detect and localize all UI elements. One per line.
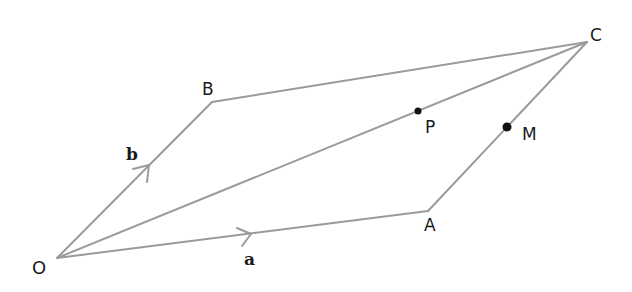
- label-a: A: [424, 217, 436, 234]
- parallelogram-diagram: O B C A P M a b: [0, 0, 632, 292]
- label-p: P: [425, 119, 435, 136]
- label-c: C: [590, 27, 602, 44]
- point-p: [415, 108, 422, 115]
- vector-label-b: b: [126, 146, 138, 163]
- diagram-lines: [0, 0, 632, 292]
- segment-bc: [212, 42, 587, 102]
- vector-label-a: a: [244, 251, 255, 268]
- label-o: O: [32, 259, 46, 277]
- label-b: B: [202, 81, 214, 98]
- point-m: [503, 123, 512, 132]
- segment-ob: [57, 102, 212, 258]
- arrow-a-icon: [237, 228, 251, 246]
- label-m: M: [522, 126, 537, 143]
